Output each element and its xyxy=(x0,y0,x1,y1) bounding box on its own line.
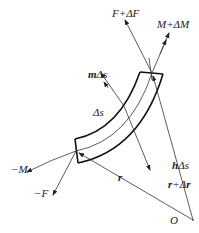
m-plus-dm-arrow-inner xyxy=(160,40,166,54)
label-m-ds: mΔs xyxy=(88,68,107,80)
label-r: r xyxy=(118,171,123,183)
label-f-plus-df: F+ΔF xyxy=(111,7,140,19)
f-plus-df-arrow xyxy=(125,20,152,73)
label-h-ds: hΔs xyxy=(172,159,189,171)
beam-element xyxy=(75,72,163,163)
label-neg-f: −F xyxy=(34,187,48,199)
neg-m-arrow xyxy=(27,151,76,172)
label-origin: O xyxy=(170,214,178,226)
label-r-plus-dr-mid: +Δ xyxy=(172,178,186,190)
h-ds-arrow xyxy=(124,106,150,170)
origin-point xyxy=(192,219,194,221)
r-plus-dr-vector xyxy=(153,76,193,220)
neg-f-arrow xyxy=(53,151,76,195)
beam-centerline xyxy=(76,73,152,151)
label-h-ds-rest: Δs xyxy=(177,159,189,171)
label-r-plus-dr-bold2: r xyxy=(186,178,191,190)
label-r-plus-dr: r+Δr xyxy=(168,178,191,190)
beam-inner-edge xyxy=(78,74,163,163)
curved-beam-force-diagram: F+ΔF M+ΔM mΔs Δs −M −F hΔs r r+Δr O xyxy=(0,0,199,233)
m-ds-arrow-inner xyxy=(104,82,108,88)
label-m-ds-rest: Δs xyxy=(96,68,108,80)
label-m-plus-dm: M+ΔM xyxy=(156,18,190,30)
label-neg-m: −M xyxy=(11,163,28,175)
label-delta-s: Δs xyxy=(92,106,104,118)
